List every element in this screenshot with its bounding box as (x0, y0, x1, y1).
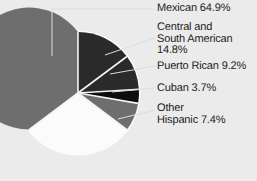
pie-chart-labels: Mexican 64.9% Central and South American… (0, 0, 257, 181)
pie-label-mexican: Mexican 64.9% (157, 3, 230, 15)
pie-label-cuban: Cuban 3.7% (157, 83, 216, 95)
pie-label-other-hispanic: Other Hispanic 7.4% (157, 103, 225, 126)
pie-label-puerto-rican: Puerto Rican 9.2% (157, 61, 246, 73)
pie-chart-figure: Mexican 64.9% Central and South American… (0, 0, 257, 181)
pie-label-central-south-american: Central and South American 14.8% (157, 22, 233, 57)
